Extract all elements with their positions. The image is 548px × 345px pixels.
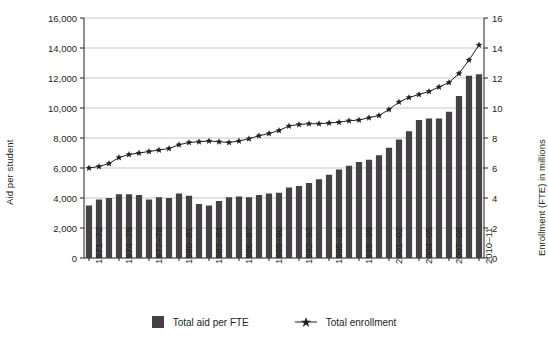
bar	[166, 198, 172, 258]
data-point-star-marker	[356, 116, 363, 123]
bar	[266, 194, 272, 259]
legend-star-icon	[295, 316, 317, 328]
data-point-star-marker	[286, 122, 293, 129]
data-point-star-marker	[126, 151, 133, 158]
chart-legend: Total aid per FTE Total enrollment	[0, 316, 548, 328]
y-axis-left-tick-label: 8,000	[17, 133, 77, 144]
x-axis-tick-label: 2001–02	[393, 227, 404, 264]
bar	[316, 179, 322, 258]
data-point-star-marker	[416, 91, 423, 98]
plot-area	[0, 0, 548, 345]
x-axis-tick-label: 1989–90	[273, 227, 284, 264]
bar	[296, 186, 302, 258]
data-point-star-marker	[316, 120, 323, 127]
data-point-star-marker	[346, 117, 353, 124]
bar	[196, 204, 202, 258]
y-axis-left-tick-label: 0	[17, 253, 77, 264]
data-point-star-marker	[86, 164, 93, 171]
legend-label-line: Total enrollment	[326, 317, 397, 328]
y-axis-right-tick-label: 6	[492, 163, 497, 174]
x-axis-tick-label: 1995–96	[333, 227, 344, 264]
bar	[386, 148, 392, 258]
bar	[406, 131, 412, 258]
data-point-star-marker	[466, 56, 473, 63]
x-axis-tick-label: 1977–78	[153, 227, 164, 264]
y-axis-right-tick-label: 12	[492, 73, 503, 84]
data-point-star-marker	[336, 119, 343, 126]
x-axis-tick-label: 1998–99	[363, 227, 374, 264]
y-axis-left-tick-label: 16,000	[17, 13, 77, 24]
y-axis-left-tick-label: 6,000	[17, 163, 77, 174]
data-point-star-marker	[226, 139, 233, 146]
data-point-star-marker	[406, 94, 413, 101]
data-point-star-marker	[196, 138, 203, 145]
data-point-star-marker	[216, 138, 223, 145]
data-point-star-marker	[306, 120, 313, 127]
data-point-star-marker	[166, 145, 173, 152]
legend-item-line: Total enrollment	[295, 316, 397, 328]
bar	[226, 197, 232, 258]
bar	[446, 112, 452, 258]
data-point-star-marker	[326, 119, 333, 126]
x-axis-tick-label: 2007–08	[453, 227, 464, 264]
y-axis-left-tick-label: 14,000	[17, 43, 77, 54]
data-point-star-marker	[436, 83, 443, 90]
x-axis-tick-label: 1974–75	[123, 227, 134, 264]
bar	[346, 166, 352, 258]
bar	[236, 197, 242, 259]
bar	[286, 188, 292, 259]
data-point-star-marker	[366, 114, 373, 121]
y-axis-right-tick-label: 10	[492, 103, 503, 114]
y-axis-right-tick-label: 14	[492, 43, 503, 54]
legend-item-bars: Total aid per FTE	[152, 316, 249, 328]
bar	[106, 198, 112, 258]
data-point-star-marker	[186, 139, 193, 146]
y-axis-right-tick-label: 16	[492, 13, 503, 24]
legend-square-icon	[152, 316, 164, 328]
x-axis-tick-label: 1986–87	[243, 227, 254, 264]
data-point-star-marker	[426, 88, 433, 95]
bar	[116, 194, 122, 258]
y-axis-right-tick-label: 8	[492, 133, 497, 144]
bar	[466, 76, 472, 258]
bar	[356, 162, 362, 258]
data-point-star-marker	[136, 149, 143, 156]
chart-container: Aid per student Enrollment (FTE) in mill…	[0, 0, 548, 345]
bar	[206, 206, 212, 259]
data-point-star-marker	[296, 121, 303, 128]
bar	[86, 206, 92, 259]
y-axis-left-tick-label: 12,000	[17, 73, 77, 84]
data-point-star-marker	[156, 146, 163, 153]
data-point-star-marker	[96, 163, 103, 170]
x-axis-tick-label: 1980–81	[183, 227, 194, 264]
bar	[436, 119, 442, 259]
bar	[476, 74, 482, 258]
y-axis-left-tick-label: 4,000	[17, 193, 77, 204]
bar	[416, 120, 422, 258]
x-axis-tick-label: 2010–11	[483, 228, 494, 264]
data-point-star-marker	[246, 135, 253, 142]
data-point-star-marker	[106, 160, 113, 167]
y-axis-left-tick-label: 2,000	[17, 223, 77, 234]
y-axis-right-title: Enrollment (FTE) in millions	[534, 0, 545, 86]
data-point-star-marker	[276, 127, 283, 134]
bar	[376, 155, 382, 258]
bar	[326, 175, 332, 258]
x-axis-tick-label: 1992–93	[303, 227, 314, 264]
legend-label-bars: Total aid per FTE	[173, 317, 249, 328]
y-axis-right-tick-label: 4	[492, 193, 497, 204]
bar	[256, 195, 262, 258]
x-axis-tick-label: 1971–72	[93, 227, 104, 264]
bar	[146, 200, 152, 259]
y-axis-right-ticks	[484, 0, 524, 345]
x-axis-tick-label: 2004–05	[423, 227, 434, 264]
bar	[176, 194, 182, 259]
data-point-star-marker	[146, 148, 153, 155]
y-axis-left-tick-label: 10,000	[17, 103, 77, 114]
data-point-star-marker	[266, 130, 273, 137]
data-point-star-marker	[176, 141, 183, 148]
data-point-star-marker	[376, 112, 383, 119]
x-axis-tick-label: 1983–84	[213, 227, 224, 264]
bar	[136, 195, 142, 258]
data-point-star-marker	[476, 41, 483, 48]
